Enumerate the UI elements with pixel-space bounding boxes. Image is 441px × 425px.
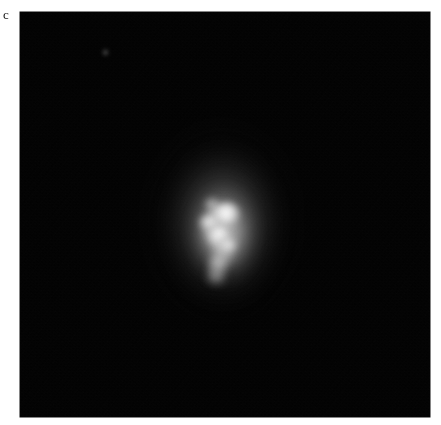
core-knot-k7 bbox=[204, 197, 220, 211]
object-diffuse-body bbox=[157, 140, 289, 318]
core-ridge-lower bbox=[208, 255, 225, 287]
core-knot-k4 bbox=[218, 236, 238, 254]
astronomical-image-panel bbox=[20, 12, 430, 417]
core-knot-k3 bbox=[208, 224, 230, 244]
core-knot-k2 bbox=[198, 213, 220, 231]
panel-label-c: c bbox=[3, 6, 19, 24]
core-ridge-upper bbox=[200, 203, 228, 246]
core-knot-k1 bbox=[214, 202, 240, 226]
detector-noise-overlay bbox=[20, 12, 430, 417]
object-inner-envelope bbox=[186, 186, 262, 292]
object-outer-halo bbox=[127, 100, 317, 340]
core-ridge-middle bbox=[208, 227, 236, 270]
faint-point-source bbox=[101, 48, 110, 57]
core-knot-k5 bbox=[208, 252, 228, 274]
figure-panel-c: c bbox=[0, 0, 441, 425]
core-knot-k6 bbox=[206, 267, 226, 285]
